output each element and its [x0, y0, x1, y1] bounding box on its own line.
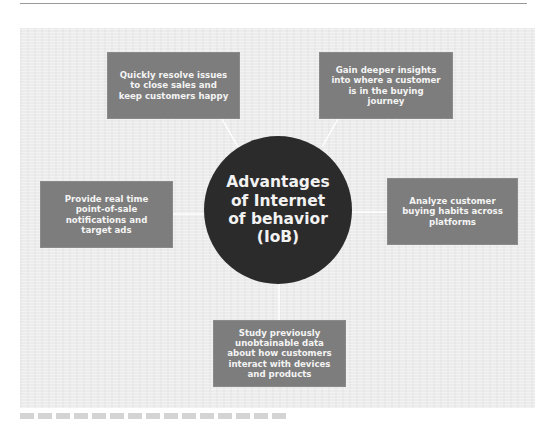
connector-top-right — [322, 119, 338, 147]
center-hub-label: Advantages of Internet of behavior (IoB) — [222, 173, 334, 246]
node-bottom: Study previously unobtainable data about… — [213, 320, 346, 387]
node-right: Analyze customer buying habits across pl… — [387, 178, 518, 245]
figure-caption-illegible — [20, 413, 290, 419]
connector-top-left — [222, 119, 238, 147]
center-hub: Advantages of Internet of behavior (IoB) — [204, 136, 352, 284]
node-left-label: Provide real time point-of-sale notifica… — [51, 194, 162, 235]
node-top-right-label: Gain deeper insights into where a custom… — [330, 65, 442, 106]
node-top-right: Gain deeper insights into where a custom… — [319, 52, 453, 119]
node-top-left: Quickly resolve issues to close sales an… — [107, 52, 240, 119]
node-bottom-label: Study previously unobtainable data about… — [226, 328, 333, 380]
node-right-label: Analyze customer buying habits across pl… — [398, 196, 507, 227]
node-left: Provide real time point-of-sale notifica… — [40, 181, 173, 248]
node-top-left-label: Quickly resolve issues to close sales an… — [118, 70, 229, 101]
